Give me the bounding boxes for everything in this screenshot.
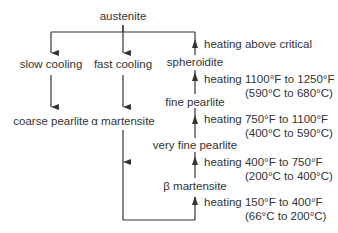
label-heating-400-750-f: heating 400°F to 750°F xyxy=(204,156,323,169)
node-spheroidite: spheroidite xyxy=(167,56,223,69)
label-heating-400-590-c: (400°C to 590°C) xyxy=(245,127,333,140)
label-heating-66-200-c: (66°C to 200°C) xyxy=(245,210,326,223)
node-fine-pearlite: fine pearlite xyxy=(165,96,224,109)
node-very-fine-pearlite: very fine pearlite xyxy=(153,139,237,152)
node-coarse-pearlite: coarse pearlite xyxy=(13,115,88,128)
label-heating-200-400-c: (200°C to 400°C) xyxy=(245,170,333,183)
node-beta-martensite: β martensite xyxy=(163,180,227,193)
node-fast-cooling: fast cooling xyxy=(94,58,152,71)
node-austenite: austenite xyxy=(100,10,147,23)
label-heating-150-400-f: heating 150°F to 400°F xyxy=(204,196,323,209)
node-alpha-martensite: α martensite xyxy=(91,115,155,128)
label-heating-1100-1250-f: heating 1100°F to 1250°F xyxy=(204,73,334,86)
label-heating-590-680-c: (590°C to 680°C) xyxy=(245,87,333,100)
node-slow-cooling: slow cooling xyxy=(20,58,83,71)
label-heating-750-1100-f: heating 750°F to 1100°F xyxy=(204,113,328,126)
label-heating-above-critical: heating above critical xyxy=(204,38,312,51)
